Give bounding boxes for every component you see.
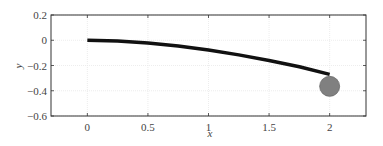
grid-lines: [51, 15, 366, 116]
x-tick-label: 1.5: [262, 121, 276, 133]
chart: 00.511.52 0.20−0.2−0.4−0.6 x y: [0, 0, 383, 146]
x-tick-label: 0: [85, 121, 91, 133]
y-axis-label: y: [12, 63, 24, 69]
y-tick-label: −0.2: [27, 60, 47, 72]
y-tick-label: −0.6: [27, 110, 47, 122]
mass-circle: [320, 76, 340, 96]
y-tick-label: 0: [42, 34, 48, 46]
y-tick-label: −0.4: [27, 85, 47, 97]
mass-marker: [320, 76, 340, 96]
x-axis-label: x: [207, 127, 213, 139]
y-tick-label: 0.2: [33, 9, 47, 21]
x-tick-label: 0.5: [141, 121, 155, 133]
x-tick-label: 2: [327, 121, 333, 133]
